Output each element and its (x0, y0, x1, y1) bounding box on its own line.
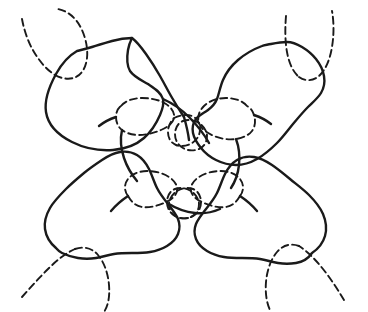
figure-background (0, 0, 368, 312)
figure-container (0, 0, 368, 312)
line-diagram-svg (0, 0, 368, 312)
